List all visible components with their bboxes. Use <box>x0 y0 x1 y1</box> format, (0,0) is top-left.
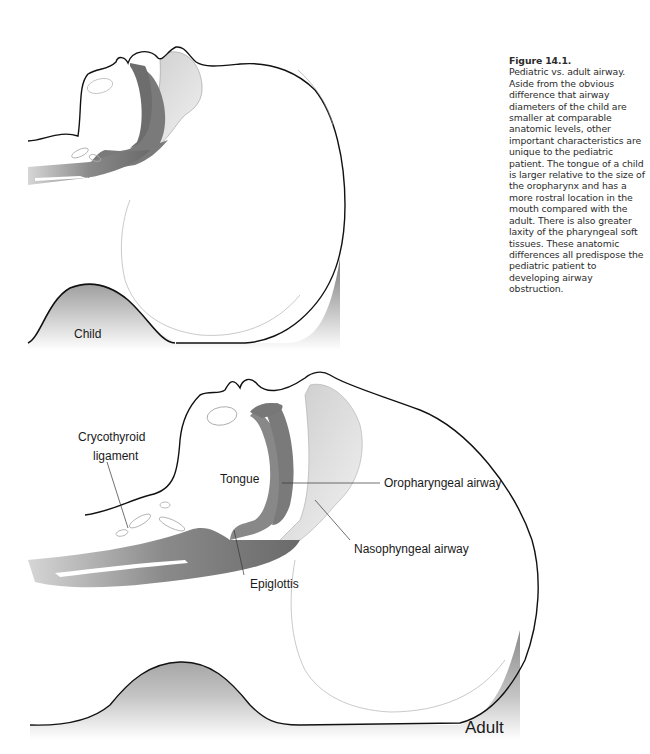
adult-cartilage-ring-2 <box>115 529 128 538</box>
label-oropharyngeal: Oropharyngeal airway <box>384 476 501 490</box>
child-illustration: Child <box>28 47 345 350</box>
adult-palate-ring <box>206 405 239 428</box>
label-crycothyroid-1: Crycothyroid <box>78 430 145 444</box>
adult-thyroid-ring <box>158 514 187 533</box>
leader-crycothyroid <box>107 462 128 528</box>
adult-skull-line <box>291 560 505 712</box>
label-epiglottis: Epiglottis <box>250 577 299 591</box>
label-crycothyroid-2: ligament <box>93 449 139 463</box>
child-skull-line <box>121 200 300 335</box>
child-palate-ring <box>86 76 115 96</box>
caption-text: Pediatric vs. adult airway. Aside from t… <box>509 66 645 294</box>
child-hair-stroke <box>298 70 333 125</box>
child-cartilage-ring <box>70 146 89 160</box>
figure-caption: Figure 14.1. Pediatric vs. adult airway.… <box>509 55 649 295</box>
adult-label: Adult <box>465 718 504 737</box>
label-nasopharyngeal: Nasophyngeal airway <box>354 542 469 556</box>
figure-number: Figure 14.1. <box>509 55 649 66</box>
adult-illustration: Crycothyroid ligament Tongue Oropharynge… <box>28 372 538 740</box>
adult-cartilage-ring <box>128 512 153 531</box>
label-tongue: Tongue <box>220 472 260 486</box>
child-label: Child <box>74 327 101 341</box>
adult-hyoid-ring <box>160 502 170 508</box>
